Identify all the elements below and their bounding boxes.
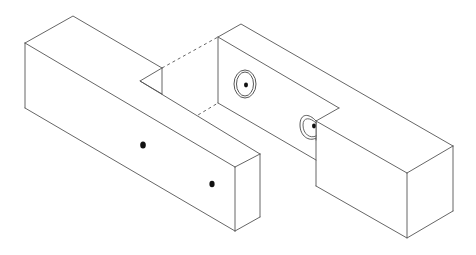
dowel-hole-upper [234,70,256,98]
hidden-edge-top [162,37,218,68]
dowel-dot [312,124,316,129]
dowel-dot [244,83,248,88]
dowel-dot-right [209,181,214,187]
joint-diagram [0,0,476,255]
dowel-dot-left [140,141,146,148]
